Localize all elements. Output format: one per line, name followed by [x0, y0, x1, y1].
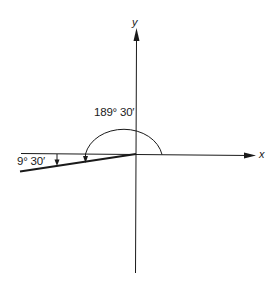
- diagram-graphics: [0, 0, 275, 295]
- small-angle-arrow: [55, 154, 60, 166]
- large-angle-label: 189° 30′: [94, 107, 134, 119]
- y-axis: [134, 28, 140, 273]
- y-axis-arrow-icon: [134, 28, 140, 41]
- small-angle-label: 9° 30′: [17, 156, 45, 168]
- x-axis: [21, 153, 256, 159]
- x-axis-label: x: [259, 149, 265, 160]
- large-angle-arc: [83, 129, 162, 163]
- x-axis-arrow-icon: [244, 153, 256, 159]
- y-axis-label: y: [132, 17, 138, 28]
- angle-diagram: y x 189° 30′ 9° 30′: [0, 0, 275, 295]
